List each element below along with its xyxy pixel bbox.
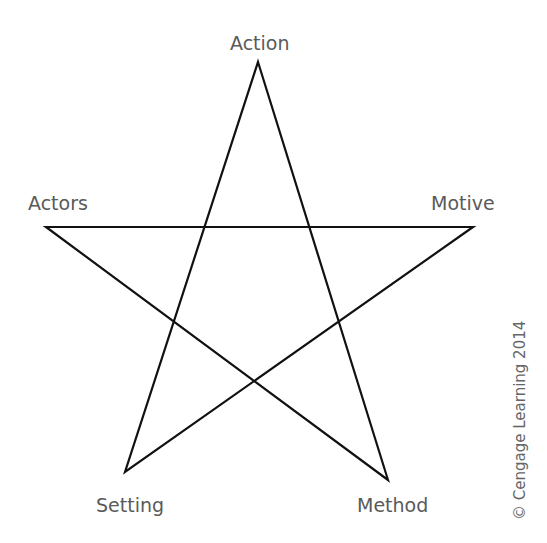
star-outline [46,62,473,480]
copyright-credit: © Cengage Learning 2014 [511,321,529,520]
pentagram-star [0,0,547,543]
label-motive: Motive [431,192,495,214]
label-actors: Actors [28,192,88,214]
label-method: Method [357,494,428,516]
label-action: Action [230,32,290,54]
label-setting: Setting [96,494,164,516]
